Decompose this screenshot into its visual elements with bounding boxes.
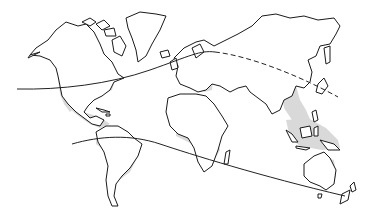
madagascar xyxy=(224,150,230,164)
baffin-island xyxy=(112,36,126,56)
cuba xyxy=(96,108,110,112)
tasmania xyxy=(318,194,322,198)
africa xyxy=(166,94,228,172)
kamchatka xyxy=(324,46,330,64)
world-map xyxy=(0,0,376,217)
arctic-island-2 xyxy=(96,20,110,30)
borneo xyxy=(300,126,312,138)
australia xyxy=(304,152,336,190)
greenland xyxy=(126,12,166,62)
continents xyxy=(28,12,356,206)
hispaniola xyxy=(106,114,110,116)
philippines xyxy=(312,110,318,122)
arctic-island-3 xyxy=(104,28,116,36)
north-america xyxy=(30,22,124,126)
sulawesi xyxy=(314,126,318,136)
iceland xyxy=(160,50,170,58)
new-zealand-south xyxy=(340,190,350,204)
new-zealand-north xyxy=(350,182,356,192)
